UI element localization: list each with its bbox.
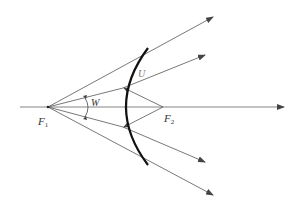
ray-inner-top-out (123, 55, 205, 88)
angle-w-arc (85, 98, 88, 117)
ray-reflected-top (124, 88, 163, 107)
optics-diagram (0, 0, 294, 211)
label-f2: F2 (164, 113, 174, 126)
ray-outer-bottom (48, 107, 213, 195)
ray-reflected-bottom (124, 107, 163, 127)
label-angle-w: W (91, 98, 99, 108)
label-angle-u: U (138, 69, 145, 79)
mirror-arc (126, 48, 148, 165)
focus-f1-point (47, 106, 50, 109)
label-f1: F1 (38, 116, 48, 129)
